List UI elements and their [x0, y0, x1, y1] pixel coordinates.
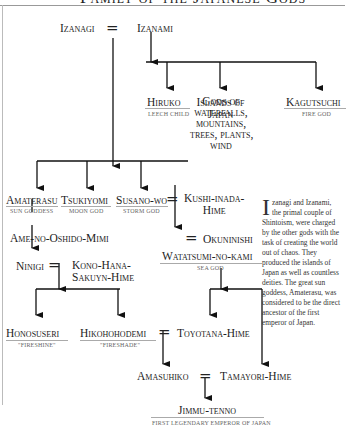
underline — [284, 108, 346, 109]
underline — [151, 417, 264, 418]
underline — [145, 108, 190, 109]
label-leech-child: Leech child — [148, 111, 189, 117]
marriage-symbol: = — [158, 325, 171, 340]
node-watatsumi-no-kami: Watatsumi-no-kami — [162, 250, 252, 262]
node-amaterasu: Amaterasu — [6, 194, 57, 206]
node-kono-hana-sakuyn-hime: Kono-Hana- Sakuyn-Hime — [72, 259, 134, 283]
marriage-symbol: = — [106, 21, 119, 36]
label-moon-god: Moon god — [69, 208, 103, 214]
node-okuninishi: Okuninishi — [203, 233, 253, 245]
node-izanami: Izanami — [137, 22, 173, 34]
gods-line-5: wind — [190, 140, 252, 151]
label-sun-goddess: Sun goddess — [10, 208, 53, 214]
node-kushi-inada-hime: Kushi-inada- Hime — [184, 192, 244, 216]
sidebar-description: Izanagi and Izanami, the primal couple o… — [262, 198, 342, 328]
marriage-symbol: = — [185, 231, 198, 246]
underline — [160, 263, 262, 264]
marriage-symbol: = — [199, 369, 212, 384]
kushi-line-2: Hime — [184, 204, 244, 216]
node-honosuseri: Honosuseri — [6, 327, 59, 339]
underline — [61, 206, 111, 207]
node-gods-of-nature: Gods of waterfalls, mountains, trees, pl… — [190, 96, 252, 151]
label-storm-god: Storm god — [123, 208, 160, 214]
sidebar-text: zanagi and Izanami, the primal couple of… — [262, 198, 340, 327]
node-kagutsuchi: Kagutsuchi — [286, 96, 341, 108]
node-hikohohodemi: Hikohohodemi — [80, 327, 146, 339]
kono-line-1: Kono-Hana- — [72, 259, 134, 271]
label-first-emperor: First legendary emperor of Japan — [152, 420, 271, 426]
label-fire-god: Fire god — [302, 111, 331, 117]
underline — [6, 206, 58, 207]
node-ame-no-oshido-mimi: Ame-no-Oshido-Mimi — [10, 232, 109, 244]
underline — [116, 206, 168, 207]
kushi-line-1: Kushi-inada- — [184, 192, 244, 204]
kono-line-2: Sakuyn-Hime — [72, 271, 134, 283]
marriage-symbol: = — [166, 192, 179, 207]
node-amasuhiko: Amasuhiko — [137, 370, 188, 382]
node-toyotana-hime: Toyotana-Hime — [177, 327, 250, 339]
underline — [6, 340, 68, 341]
node-ninigi: Ninigi — [16, 260, 44, 272]
node-susano-wo: Susano-wo — [116, 194, 167, 206]
label-sea-god: Sea god — [197, 265, 224, 271]
node-tamayori-hime: Tamayori-Hime — [220, 370, 291, 382]
underline — [80, 340, 156, 341]
node-jimmu-tenno: Jimmu-tenno — [178, 404, 236, 416]
node-hiruko: Hiruko — [147, 96, 181, 108]
label-fireshine: "Fireshine" — [18, 342, 56, 348]
node-izanagi: Izanagi — [60, 22, 95, 34]
drop-cap: I — [262, 197, 270, 217]
node-tsukiyomi: Tsukiyomi — [61, 194, 108, 206]
label-fireshade: "Fireshade" — [100, 342, 140, 348]
marriage-symbol: = — [48, 258, 61, 273]
